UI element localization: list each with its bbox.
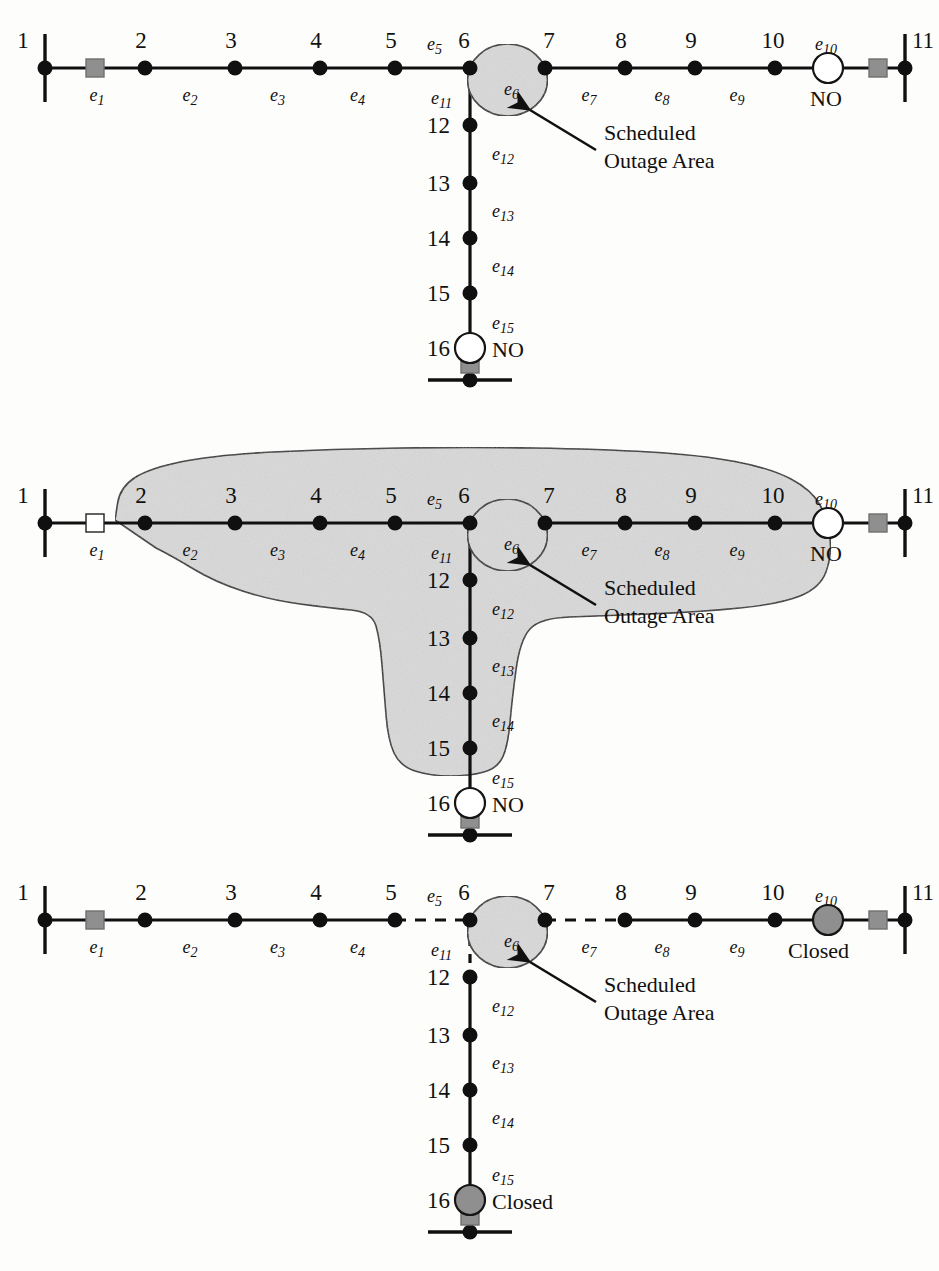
node-2[interactable]: [138, 516, 153, 531]
node-12[interactable]: [463, 118, 478, 133]
switch-right-closed[interactable]: [869, 911, 887, 929]
node-3[interactable]: [228, 913, 243, 928]
node-15[interactable]: [463, 286, 478, 301]
switch-e1-closed[interactable]: [86, 911, 104, 929]
node-label-2: 2: [135, 880, 147, 905]
node-6[interactable]: [463, 61, 478, 76]
edge-label-e7: e7: [582, 85, 598, 108]
outage-annotation-line1: Scheduled: [604, 972, 696, 997]
node-11[interactable]: [898, 913, 913, 928]
node-label-10: 10: [762, 483, 785, 508]
node-9[interactable]: [688, 516, 703, 531]
switch-e1-open[interactable]: [86, 514, 104, 532]
tie-switch-node-16[interactable]: [455, 1185, 485, 1215]
node-label-13: 13: [427, 626, 450, 651]
node-label-8: 8: [615, 28, 627, 53]
node-14[interactable]: [463, 231, 478, 246]
node-9[interactable]: [688, 913, 703, 928]
node-label-13: 13: [427, 171, 450, 196]
node-4[interactable]: [313, 913, 328, 928]
node-1[interactable]: [38, 61, 53, 76]
node-label-13: 13: [427, 1023, 450, 1048]
edge-label-e1: e1: [90, 540, 105, 563]
node-10[interactable]: [768, 61, 783, 76]
edge-label-e9: e9: [730, 85, 745, 108]
node-branch-source[interactable]: [463, 828, 478, 843]
node-11[interactable]: [898, 61, 913, 76]
switch-right-closed[interactable]: [869, 59, 887, 77]
edge-label-e4: e4: [350, 937, 365, 960]
figure-stage: 12345678910111213141516e1e2e3e4e5e6e7e8e…: [0, 0, 939, 1271]
node-3[interactable]: [228, 61, 243, 76]
node-branch-source[interactable]: [463, 1225, 478, 1240]
node-6[interactable]: [463, 516, 478, 531]
node-4[interactable]: [313, 61, 328, 76]
node-15[interactable]: [463, 1138, 478, 1153]
edge-label-e11: e11: [431, 88, 452, 111]
edge-label-e5: e5: [427, 886, 442, 909]
node-15[interactable]: [463, 741, 478, 756]
panel-c: 12345678910111213141516e1e2e3e4e5e6e7e8e…: [17, 880, 934, 1240]
node-14[interactable]: [463, 686, 478, 701]
node-12[interactable]: [463, 573, 478, 588]
node-11[interactable]: [898, 516, 913, 531]
tie-switch-e10[interactable]: [813, 508, 843, 538]
edge-label-e5: e5: [427, 34, 442, 57]
tie-switch-e10-state: Closed: [788, 938, 849, 963]
node-label-3: 3: [225, 880, 237, 905]
node-13[interactable]: [463, 176, 478, 191]
node-label-2: 2: [135, 28, 147, 53]
node-label-1: 1: [17, 28, 29, 53]
node-3[interactable]: [228, 516, 243, 531]
tie-switch-node-16-state: NO: [492, 792, 524, 817]
edge-label-e4: e4: [350, 85, 365, 108]
node-label-7: 7: [543, 483, 555, 508]
edge-label-e15: e15: [492, 313, 514, 336]
node-9[interactable]: [688, 61, 703, 76]
node-label-3: 3: [225, 28, 237, 53]
tie-switch-node-16[interactable]: [455, 333, 485, 363]
node-label-1: 1: [17, 483, 29, 508]
node-5[interactable]: [388, 913, 403, 928]
node-10[interactable]: [768, 516, 783, 531]
node-label-16: 16: [427, 791, 450, 816]
node-label-14: 14: [427, 226, 451, 251]
node-5[interactable]: [388, 516, 403, 531]
switch-right-closed[interactable]: [869, 514, 887, 532]
node-1[interactable]: [38, 913, 53, 928]
node-6[interactable]: [463, 913, 478, 928]
node-7[interactable]: [538, 61, 553, 76]
edge-label-e14: e14: [492, 1108, 514, 1131]
tie-switch-node-16-state: NO: [492, 337, 524, 362]
node-12[interactable]: [463, 970, 478, 985]
node-label-4: 4: [310, 880, 322, 905]
node-label-6: 6: [458, 483, 470, 508]
edge-label-e8: e8: [655, 937, 670, 960]
tie-switch-e10[interactable]: [813, 905, 843, 935]
tie-switch-e10[interactable]: [813, 53, 843, 83]
node-13[interactable]: [463, 1028, 478, 1043]
node-branch-source[interactable]: [463, 373, 478, 388]
node-label-4: 4: [310, 28, 322, 53]
node-13[interactable]: [463, 631, 478, 646]
node-label-5: 5: [385, 880, 397, 905]
node-label-11: 11: [912, 28, 934, 53]
node-label-12: 12: [427, 965, 450, 990]
node-7[interactable]: [538, 913, 553, 928]
node-8[interactable]: [618, 61, 633, 76]
node-label-11: 11: [912, 483, 934, 508]
node-2[interactable]: [138, 913, 153, 928]
switch-e1-closed[interactable]: [86, 59, 104, 77]
node-10[interactable]: [768, 913, 783, 928]
node-8[interactable]: [618, 516, 633, 531]
node-4[interactable]: [313, 516, 328, 531]
node-14[interactable]: [463, 1083, 478, 1098]
tie-switch-node-16[interactable]: [455, 788, 485, 818]
node-7[interactable]: [538, 516, 553, 531]
node-label-12: 12: [427, 568, 450, 593]
edge-label-e3: e3: [270, 937, 285, 960]
node-5[interactable]: [388, 61, 403, 76]
node-1[interactable]: [38, 516, 53, 531]
node-2[interactable]: [138, 61, 153, 76]
node-8[interactable]: [618, 913, 633, 928]
